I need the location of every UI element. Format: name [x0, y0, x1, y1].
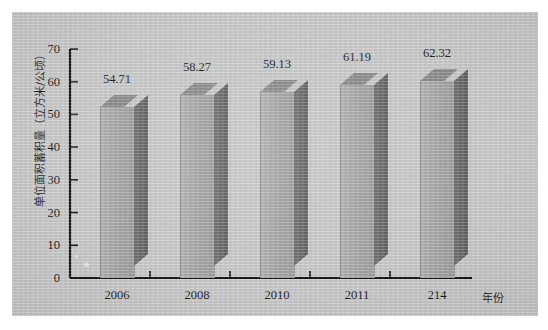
bar-chart-plot: 单位面积蓄积量（立方米/公顷） 70 60 50 40 30 20 10 0 5…: [12, 12, 538, 316]
y-tick-label-10: 10: [34, 238, 60, 253]
bar-2011-side: [374, 73, 388, 266]
bar-value-214: 62.32: [402, 46, 472, 61]
scan-speck: [75, 255, 78, 258]
x-tick-label-2010: 2010: [242, 288, 312, 303]
y-tick-label-60: 60: [34, 75, 60, 90]
y-tick-label-0: 0: [34, 271, 60, 286]
bar-value-2006: 54.71: [82, 72, 152, 87]
bar-2011-front: [340, 85, 375, 278]
x-tick-label-2008: 2008: [162, 288, 232, 303]
y-tick-label-40: 40: [34, 140, 60, 155]
y-tick-label-50: 50: [34, 107, 60, 122]
scanned-figure-page: 单位面积蓄积量（立方米/公顷） 70 60 50 40 30 20 10 0 5…: [0, 0, 548, 330]
bar-2008-front: [180, 95, 215, 278]
x-axis-title: 年份: [482, 289, 504, 305]
bar-214-front: [420, 81, 455, 278]
scan-speck: [84, 262, 89, 267]
x-tick-label-2011: 2011: [322, 288, 392, 303]
y-tick-label-30: 30: [34, 173, 60, 188]
bar-2010-side: [294, 80, 308, 266]
y-tick-label-70: 70: [34, 42, 60, 57]
y-tick-label-20: 20: [34, 206, 60, 221]
figure-area: 单位面积蓄积量（立方米/公顷） 70 60 50 40 30 20 10 0 5…: [12, 12, 538, 316]
bar-214-side: [454, 69, 468, 266]
bar-value-2008: 58.27: [162, 60, 232, 75]
bar-value-2011: 61.19: [322, 50, 392, 65]
bar-value-2010: 59.13: [242, 57, 312, 72]
bar-2006-side: [134, 95, 148, 266]
bar-2010-front: [260, 92, 295, 278]
x-tick-label-2006: 2006: [82, 288, 152, 303]
bar-2006-front: [100, 107, 135, 278]
bar-2008-side: [214, 83, 228, 266]
x-tick-label-214: 214: [402, 288, 472, 303]
